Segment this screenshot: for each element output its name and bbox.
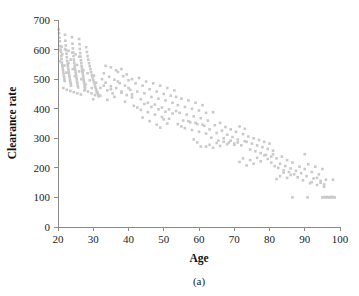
scatter-plot: 0100200300400500600700 20304050607080901… — [0, 0, 359, 296]
data-point — [131, 78, 134, 81]
data-point — [194, 122, 197, 125]
data-point — [286, 159, 289, 162]
data-point — [131, 96, 134, 99]
data-point — [222, 141, 225, 144]
data-point — [208, 143, 211, 146]
data-point — [85, 46, 88, 49]
figure-root: 0100200300400500600700 20304050607080901… — [0, 0, 359, 296]
data-point — [201, 123, 204, 126]
data-point — [236, 138, 239, 141]
data-point — [270, 155, 273, 158]
x-tick-label: 30 — [88, 233, 100, 245]
data-point — [76, 82, 79, 85]
data-point — [94, 94, 97, 97]
data-point — [222, 137, 225, 140]
data-point — [333, 196, 336, 199]
data-point — [263, 141, 266, 144]
data-point — [318, 173, 321, 176]
data-point — [75, 78, 78, 81]
data-point — [279, 175, 282, 178]
data-point — [148, 120, 151, 123]
data-point — [168, 108, 171, 111]
data-point — [214, 124, 217, 127]
data-point — [162, 93, 165, 96]
data-point — [124, 84, 127, 87]
data-point — [113, 78, 116, 81]
data-point — [282, 169, 285, 172]
data-point — [244, 128, 247, 131]
data-point — [78, 55, 81, 58]
data-point — [275, 157, 278, 160]
data-point — [140, 109, 143, 112]
data-point — [80, 93, 83, 96]
data-point — [249, 148, 252, 151]
data-point — [207, 119, 210, 122]
data-point — [323, 183, 326, 186]
data-point — [171, 102, 174, 105]
data-point — [71, 36, 74, 39]
data-point — [77, 86, 80, 89]
data-point — [293, 173, 296, 176]
y-ticks-layer: 0100200300400500600700 — [34, 14, 59, 233]
data-point — [192, 115, 195, 118]
data-point — [84, 83, 87, 86]
data-point — [74, 69, 77, 72]
data-point — [106, 89, 109, 92]
data-point — [199, 117, 202, 120]
data-point — [70, 84, 73, 87]
y-axis-title: Clearance rate — [6, 87, 18, 159]
data-point — [224, 126, 227, 129]
data-point — [311, 171, 314, 174]
data-point — [71, 51, 74, 54]
scatter-plot-svg: 0100200300400500600700 20304050607080901… — [0, 0, 359, 296]
data-point — [164, 99, 167, 102]
data-point — [80, 78, 83, 81]
data-point — [86, 51, 89, 54]
data-point — [64, 48, 67, 51]
data-point — [59, 48, 62, 51]
data-point — [134, 82, 137, 85]
data-point — [67, 67, 70, 70]
x-tick-label: 90 — [299, 233, 311, 245]
data-point — [125, 73, 128, 76]
data-point — [66, 56, 69, 59]
data-point — [184, 127, 187, 130]
data-point — [281, 155, 284, 158]
data-point — [312, 177, 315, 180]
data-point — [58, 60, 61, 63]
data-point — [332, 178, 335, 181]
data-point — [72, 47, 75, 50]
data-point — [325, 178, 328, 181]
data-point — [69, 58, 72, 61]
data-point — [251, 142, 254, 145]
data-point — [177, 123, 180, 126]
data-point — [177, 104, 180, 107]
data-point — [242, 157, 245, 160]
data-point — [277, 167, 280, 170]
data-point — [60, 45, 63, 48]
data-point — [143, 92, 146, 95]
data-point — [136, 106, 139, 109]
data-point — [82, 69, 85, 72]
data-point — [141, 116, 144, 119]
data-point — [182, 119, 185, 122]
data-point — [226, 133, 229, 136]
data-point — [289, 167, 292, 170]
data-point — [120, 68, 123, 71]
data-point — [113, 96, 116, 99]
data-point — [321, 168, 324, 171]
data-point — [104, 81, 107, 84]
data-point — [258, 139, 261, 142]
data-point — [302, 179, 305, 182]
data-point — [272, 149, 275, 152]
data-point — [68, 72, 71, 75]
x-tick-label: 70 — [229, 233, 241, 245]
data-point — [124, 100, 127, 103]
data-point — [159, 126, 162, 129]
data-point — [110, 66, 113, 69]
data-point — [111, 92, 114, 95]
data-point — [69, 90, 72, 93]
data-point — [164, 110, 167, 113]
data-point — [73, 58, 76, 61]
data-point — [80, 65, 83, 68]
